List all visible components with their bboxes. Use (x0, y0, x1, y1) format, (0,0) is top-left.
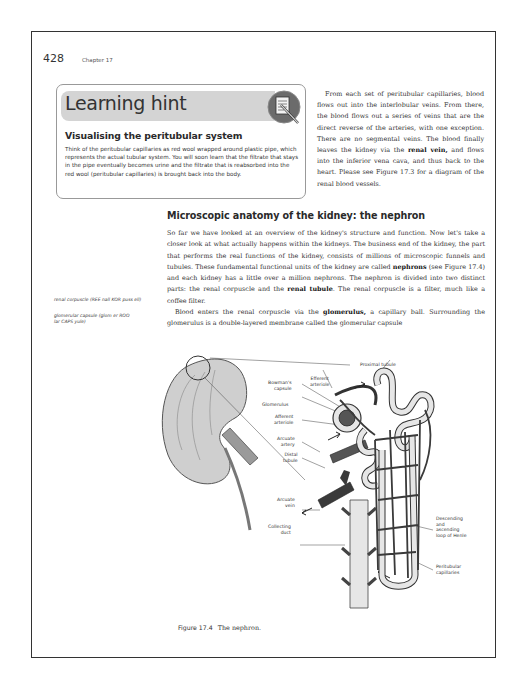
running-head: 428 Chapter 17 (43, 52, 113, 65)
label-arcuate-vein: Arcuate vein (277, 497, 295, 508)
figure-caption-text: The nephron. (218, 624, 261, 632)
label-collecting-duct: Collecting duct (268, 524, 291, 535)
label-glomerulus: Glomerulus (262, 402, 288, 408)
margin-note-renal-corpuscle: renal corpuscle (REE nall KOR puss ell) (54, 297, 154, 303)
paragraph: So far we have looked at an overview of … (167, 228, 485, 307)
bold-term-nephrons: nephrons (393, 263, 427, 271)
bold-term-glomerulus: glomerulus, (323, 308, 366, 316)
figure-number: Figure 17.4 (178, 624, 213, 631)
paragraph: Blood enters the renal corpuscle via the… (167, 307, 485, 330)
bold-term-renal-tubule: renal tubule (287, 285, 332, 293)
text-run: From each set of peritubular capillaries… (317, 90, 484, 154)
text-run: Blood enters the renal corpuscle via the (175, 308, 323, 316)
figure-caption: Figure 17.4 The nephron. (178, 624, 261, 632)
learning-hint-title: Learning hint (65, 92, 186, 115)
label-loop-of-henle: Descending and ascending loop of Henle (436, 516, 466, 538)
label-proximal-tubule: Proximal tubule (360, 362, 396, 368)
chapter-label: Chapter 17 (82, 57, 113, 63)
bold-term-renal-vein: renal vein, (408, 146, 448, 154)
learning-hint-box: Learning hint Visualising the peritubula… (56, 84, 306, 199)
paragraph: From each set of peritubular capillaries… (317, 89, 484, 190)
label-distal-tubule: Distal tubule (283, 452, 298, 463)
label-peritubular-capillaries: Peritubular capillaries (436, 564, 461, 575)
label-bowmans-capsule: Bowman's capsule (268, 380, 292, 391)
page-number: 428 (43, 52, 64, 65)
label-efferent-arteriole: Efferent arteriole (310, 376, 329, 387)
label-arcuate-artery: Arcuate artery (277, 436, 295, 447)
right-column-text: From each set of peritubular capillaries… (317, 89, 484, 190)
main-body-text: So far we have looked at an overview of … (167, 228, 485, 330)
nephron-figure: Proximal tubule Efferent arteriole Bowma… (150, 340, 490, 610)
margin-note-glomerular-capsule: glomerular capsule (glom er ROO lar CAPS… (54, 313, 132, 325)
label-afferent-arteriole: Afferent arteriole (274, 414, 293, 425)
learning-hint-body: Think of the peritubular capillaries as … (65, 145, 299, 178)
learning-hint-subtitle: Visualising the peritubular system (65, 130, 242, 141)
section-heading: Microscopic anatomy of the kidney: the n… (167, 210, 425, 221)
notepad-pencil-icon (266, 89, 302, 125)
